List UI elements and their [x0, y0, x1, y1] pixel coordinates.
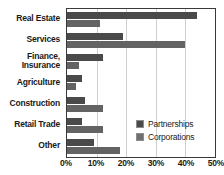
- bar-partnerships-agriculture: [67, 75, 82, 82]
- bar-group-real-estate: [67, 9, 215, 30]
- bar-partnerships-finance-insurance: [67, 54, 103, 61]
- bar-chart: Real Estate Services Finance, Insurance …: [0, 0, 224, 175]
- category-label-other: Other: [0, 135, 63, 156]
- category-label-real-estate: Real Estate: [0, 8, 63, 29]
- category-label-finance-insurance: Finance, Insurance: [0, 50, 63, 71]
- corporations-swatch-icon: [136, 133, 144, 141]
- category-label-agriculture: Agriculture: [0, 71, 63, 92]
- bar-corporations-retail-trade: [67, 126, 103, 133]
- bar-partnerships-retail-trade: [67, 118, 82, 125]
- x-tick-label-50: 50%: [208, 158, 224, 168]
- category-label-construction: Construction: [0, 93, 63, 114]
- x-tick-label-40: 40%: [178, 158, 194, 168]
- partnerships-swatch-icon: [136, 120, 144, 128]
- bar-group-construction: [67, 94, 215, 115]
- category-axis: Real Estate Services Finance, Insurance …: [0, 8, 63, 156]
- x-tick-label-0: 0%: [60, 158, 72, 168]
- bar-corporations-real-estate: [67, 20, 100, 27]
- category-label-services: Services: [0, 29, 63, 50]
- value-axis: 0%10%20%30%40%50%: [66, 158, 216, 172]
- bar-partnerships-services: [67, 33, 123, 40]
- bar-corporations-other: [67, 147, 120, 154]
- bar-corporations-agriculture: [67, 83, 76, 90]
- bar-group-finance-insurance: [67, 51, 215, 72]
- bar-group-services: [67, 30, 215, 51]
- bar-corporations-services: [67, 41, 185, 48]
- bar-partnerships-other: [67, 139, 94, 146]
- bar-partnerships-real-estate: [67, 12, 197, 19]
- legend-item-corporations: Corporations: [136, 132, 194, 142]
- category-label-retail-trade: Retail Trade: [0, 114, 63, 135]
- x-tick-label-20: 20%: [118, 158, 134, 168]
- legend-item-partnerships: Partnerships: [136, 119, 194, 129]
- bar-corporations-construction: [67, 105, 103, 112]
- x-tick-label-10: 10%: [88, 158, 104, 168]
- bar-group-agriculture: [67, 72, 215, 93]
- chart-legend: Partnerships Corporations: [136, 119, 194, 142]
- x-tick-label-30: 30%: [148, 158, 164, 168]
- legend-label-corporations: Corporations: [148, 132, 194, 142]
- bar-partnerships-construction: [67, 97, 85, 104]
- bar-corporations-finance-insurance: [67, 62, 79, 69]
- legend-label-partnerships: Partnerships: [148, 119, 193, 129]
